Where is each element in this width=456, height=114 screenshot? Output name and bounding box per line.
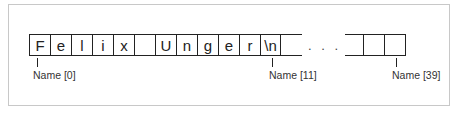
array-edge-top	[281, 34, 302, 35]
array-cell-10: r	[239, 34, 260, 56]
array-cell-2: l	[71, 34, 92, 56]
label-name-39: Name [39]	[392, 69, 440, 81]
array-tail-top	[345, 34, 406, 35]
pointer-tick-11	[272, 58, 273, 67]
array-cell-3: i	[92, 34, 113, 56]
array-edge-bottom	[281, 55, 302, 56]
label-name-11: Name [11]	[269, 69, 317, 81]
array-cell-39-right	[405, 34, 406, 56]
array-cell-9: e	[218, 34, 239, 56]
pointer-tick-0	[37, 58, 38, 67]
array-cell-6: U	[155, 34, 176, 56]
array-cell-1: e	[50, 34, 71, 56]
array-cell-38-left	[363, 34, 364, 56]
array-cell-7: n	[176, 34, 197, 56]
array-cell-8: g	[197, 34, 218, 56]
array-tail-bottom	[345, 55, 406, 56]
array-cell-4: x	[113, 34, 134, 56]
array-cell-11: \n	[260, 34, 281, 56]
ellipsis: . . .	[308, 38, 341, 53]
pointer-tick-39	[396, 58, 397, 67]
array-cell-5	[134, 34, 155, 56]
label-name-0: Name [0]	[33, 69, 76, 81]
array-cell-0: F	[29, 34, 50, 56]
array-cell-39-left	[384, 34, 385, 56]
